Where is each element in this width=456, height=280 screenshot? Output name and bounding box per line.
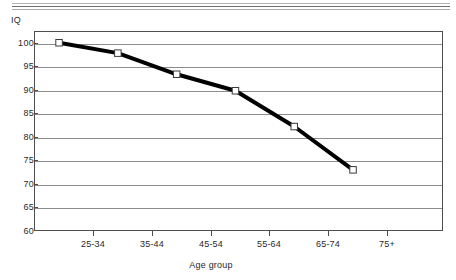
y-tick-label-70: 70 [8, 180, 34, 189]
rule-top [12, 3, 450, 4]
y-tick-label-65: 65 [8, 203, 34, 212]
rule-middle [12, 6, 450, 7]
data-point-marker-1 [115, 50, 122, 57]
x-tick-label-0: 25-34 [81, 239, 105, 249]
x-axis-title: Age group [189, 260, 232, 271]
data-point-marker-5 [350, 167, 357, 174]
series-iq [34, 31, 443, 231]
y-tick-label-95: 95 [8, 62, 34, 71]
x-axis-title-wrap: Age group [0, 260, 456, 271]
data-point-marker-4 [291, 123, 298, 130]
x-tick-label-5: 75+ [379, 239, 395, 249]
y-axis-title: IQ [11, 15, 21, 26]
y-tick-label-60: 60 [8, 227, 34, 236]
y-tick-label-75: 75 [8, 156, 34, 165]
x-tick-label-3: 55-64 [257, 239, 281, 249]
x-tick-mark-1 [152, 231, 153, 236]
data-point-marker-0 [56, 40, 63, 47]
y-tick-label-80: 80 [8, 133, 34, 142]
y-tick-label-100: 100 [8, 39, 34, 48]
header-rules [12, 3, 450, 12]
data-point-marker-3 [232, 88, 239, 95]
y-tick-label-90: 90 [8, 86, 34, 95]
y-tick-label-85: 85 [8, 109, 34, 118]
x-tick-mark-0 [93, 231, 94, 236]
series-line [59, 43, 353, 170]
x-tick-mark-4 [328, 231, 329, 236]
x-tick-label-2: 45-54 [199, 239, 223, 249]
x-tick-mark-5 [387, 231, 388, 236]
x-tick-label-4: 65-74 [316, 239, 340, 249]
x-tick-label-1: 35-44 [140, 239, 164, 249]
iq-age-line-chart: IQ 1009590858075706560 25-3435-4445-5455… [0, 0, 456, 280]
x-axis-ticks: 25-3435-4445-5455-6465-7475+ [34, 231, 443, 261]
x-tick-mark-2 [211, 231, 212, 236]
rule-bottom [12, 9, 450, 10]
data-point-marker-2 [173, 71, 180, 78]
y-axis-tick-labels: 1009590858075706560 [0, 31, 34, 231]
x-tick-mark-3 [269, 231, 270, 236]
